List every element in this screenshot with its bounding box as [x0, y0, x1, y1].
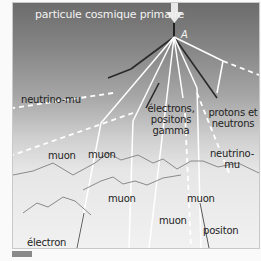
protons-neutrons-label: protons et neutrons [205, 107, 260, 129]
title-label: particule cosmique primaire [35, 9, 184, 20]
point-a-label: A [181, 29, 188, 40]
muon-label-2: muon [88, 149, 116, 160]
muon-label-5: muon [159, 215, 187, 226]
muon-label-4: muon [187, 193, 215, 204]
muon-label-1: muon [48, 150, 76, 161]
positon-label: positon [203, 225, 238, 236]
neutrino-e-mu-label: neutrino-e et mu [118, 247, 199, 249]
electron-label: électron [27, 237, 66, 248]
figure-tab-marker [12, 251, 32, 257]
electrons-positons-gamma-label: électrons, positons gamma [145, 103, 197, 136]
muon-label-3: muon [108, 193, 136, 204]
neutrino-mu-left-label: neutrino-mu [21, 94, 81, 105]
cosmic-ray-shower-diagram: particule cosmique primaire A neutrino-m… [12, 2, 260, 249]
neutrino-mu-right-label: neutrino- mu [207, 148, 257, 170]
